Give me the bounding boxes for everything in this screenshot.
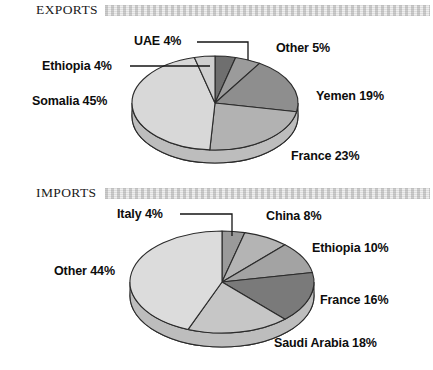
exports-chart-panel: EXPORTS UAE 4% Ethiopia 4% Somalia 45% O… [0,0,433,183]
imports-label-italy: Italy 4% [117,207,163,221]
imports-pie-slices [130,231,314,333]
imports-chart-panel: IMPORTS Italy 4% Other 44% China 8% Ethi… [0,183,433,370]
exports-pie-slices [132,56,298,150]
imports-label-saudi-arabia: Saudi Arabia 18% [274,336,377,350]
exports-label-uae: UAE 4% [134,34,181,48]
exports-label-yemen: Yemen 19% [316,89,384,103]
exports-label-other: Other 5% [276,41,330,55]
imports-label-other: Other 44% [54,264,115,278]
exports-label-ethiopia: Ethiopia 4% [42,59,112,73]
imports-label-ethiopia: Ethiopia 10% [312,241,389,255]
exports-label-somalia: Somalia 45% [32,94,107,108]
imports-label-france: France 16% [320,293,388,307]
exports-label-france: France 23% [291,149,359,163]
imports-label-china: China 8% [266,209,321,223]
